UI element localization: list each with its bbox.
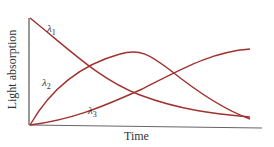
label-lambda2: λ2 [42,76,51,91]
label-lambda1: λ1 [47,22,56,37]
label-lambda3: λ3 [88,104,97,119]
chart-canvas [0,0,274,147]
curve-lambda1 [30,18,250,117]
x-axis [29,125,262,128]
y-axis-label: Light absorption [5,20,20,120]
x-axis-label: Time [124,129,149,144]
